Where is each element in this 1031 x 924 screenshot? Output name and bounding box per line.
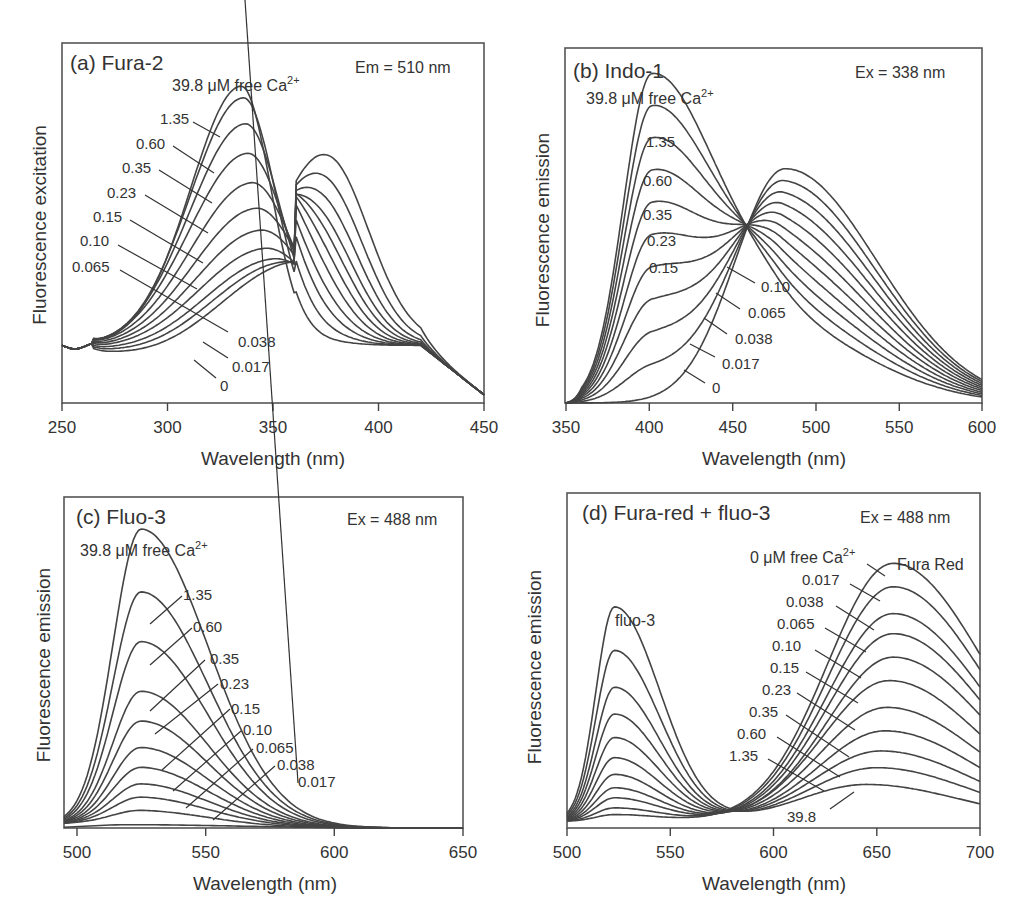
panel-c-tick: 600 — [320, 843, 348, 862]
panel-c-x-axis: 500 550 600 650 Wavelength (nm) — [63, 828, 477, 894]
panel-c-top-label: 39.8 μM free Ca2+ — [80, 539, 208, 559]
panel-a-xlabel: Wavelength (nm) — [201, 448, 345, 469]
panel-b-series-label: 0.038 — [735, 330, 773, 347]
panel-c-series-label: 0.017 — [298, 773, 336, 790]
panel-a-title: (a) Fura-2 — [70, 51, 163, 74]
panel-b-xlabel: Wavelength (nm) — [702, 448, 846, 469]
panel-c-xlabel: Wavelength (nm) — [193, 873, 337, 894]
panel-a-series-label: 0.15 — [93, 208, 122, 225]
panel-c-tick: 650 — [449, 843, 477, 862]
panel-c-tick: 550 — [192, 843, 220, 862]
panel-d-ylabel: Fluorescence emission — [524, 570, 545, 764]
panel-a-series-label: 0.10 — [80, 232, 109, 249]
panel-a-tick: 300 — [153, 418, 181, 437]
panel-a-series-label: 0.017 — [232, 358, 270, 375]
spectrum-curve — [62, 173, 484, 395]
panel-a-series-label: 0.065 — [72, 258, 110, 275]
panel-c-series-label: 0.35 — [210, 650, 239, 667]
panel-c-series-label: 0.15 — [231, 700, 260, 717]
panel-a-tick: 400 — [364, 418, 392, 437]
panel-b-series-label: 0.23 — [647, 232, 676, 249]
panel-b-series-label: 0.15 — [649, 259, 678, 276]
panel-d-title: (d) Fura-red + fluo-3 — [582, 501, 771, 524]
panel-a-fura2: (a) Fura-2 Em = 510 nm 39.8 μM free Ca2+… — [29, 43, 498, 469]
panel-b-curves — [565, 73, 982, 403]
panel-a-top-label: 39.8 μM free Ca2+ — [172, 74, 300, 94]
panel-a-series-label: 0.35 — [122, 159, 151, 176]
spectrum-curve — [62, 183, 484, 395]
panel-d-series-label: 0.15 — [770, 659, 799, 676]
panel-d-series-label: 0.60 — [737, 725, 766, 742]
panel-b-top-label: 39.8 μM free Ca2+ — [586, 87, 714, 107]
panel-d-fluo3-label: fluo-3 — [615, 612, 655, 629]
panel-d-x-axis: 500 550 600 650 700 Wavelength (nm) — [553, 828, 994, 894]
panel-b-tick: 500 — [802, 418, 830, 437]
panel-c-fluo3: (c) Fluo-3 Ex = 488 nm 39.8 μM free Ca2+… — [33, 0, 477, 894]
panel-b-series-label: 0.017 — [722, 355, 760, 372]
panel-d-condition: Ex = 488 nm — [860, 509, 950, 526]
panel-b-tick: 400 — [635, 418, 663, 437]
panel-d-xlabel: Wavelength (nm) — [702, 873, 846, 894]
panel-b-tick: 350 — [552, 418, 580, 437]
panel-d-series-label: 0.35 — [749, 703, 778, 720]
figure-canvas: (a) Fura-2 Em = 510 nm 39.8 μM free Ca2+… — [0, 0, 1031, 924]
panel-b-title: (b) Indo-1 — [573, 59, 664, 82]
spectrum-curve — [62, 194, 484, 394]
panel-a-ylabel: Fluorescence excitation — [29, 125, 50, 325]
panel-d-furared-fluo3: (d) Fura-red + fluo-3 Ex = 488 nm 0 μM f… — [524, 493, 994, 894]
panel-d-furared-label: Fura Red — [897, 556, 964, 573]
panel-c-curves — [64, 529, 463, 828]
panel-c-tick: 500 — [63, 843, 91, 862]
panel-b-indo1: (b) Indo-1 Ex = 338 nm 39.8 μM free Ca2+… — [532, 48, 996, 469]
panel-b-condition: Ex = 338 nm — [855, 64, 945, 81]
panel-c-series-label: 0.23 — [220, 675, 249, 692]
panel-d-series-label: 39.8 — [787, 808, 816, 825]
panel-b-tick: 600 — [968, 418, 996, 437]
panel-c-series-label: 1.35 — [183, 586, 212, 603]
spectrum-curve — [62, 197, 484, 395]
panel-a-series-label: 1.35 — [160, 110, 189, 127]
panel-c-series-label: 0.065 — [256, 739, 294, 756]
panel-c-condition: Ex = 488 nm — [347, 511, 437, 528]
panel-d-top-label: 0 μM free Ca2+ — [750, 546, 855, 566]
spectrum-curve — [62, 187, 484, 394]
panel-c-series-label: 0.60 — [193, 618, 222, 635]
panel-d-series-label: 0.10 — [772, 637, 801, 654]
panel-a-tick: 250 — [48, 418, 76, 437]
panel-d-series-label: 0.23 — [762, 681, 791, 698]
panel-b-series-label: 0.60 — [643, 172, 672, 189]
panel-d-tick: 650 — [863, 843, 891, 862]
panel-c-ylabel: Fluorescence emission — [33, 568, 54, 762]
panel-b-series-label: 0 — [712, 379, 720, 396]
panel-d-series-label: 1.35 — [729, 747, 758, 764]
panel-a-series-label: 0 — [220, 377, 228, 394]
panel-d-series-label: 0.065 — [777, 615, 815, 632]
panel-d-tick: 500 — [553, 843, 581, 862]
panel-c-title: (c) Fluo-3 — [76, 505, 166, 528]
panel-d-tick: 600 — [759, 843, 787, 862]
panel-b-series-label: 0.065 — [748, 304, 786, 321]
panel-b-ylabel: Fluorescence emission — [532, 133, 553, 327]
panel-a-condition: Em = 510 nm — [355, 59, 451, 76]
panel-a-tick: 450 — [470, 418, 498, 437]
panel-d-tick: 700 — [966, 843, 994, 862]
spectrum-curve — [62, 194, 484, 395]
panel-b-series-label: 0.35 — [643, 206, 672, 223]
panel-b-series-label: 0.10 — [761, 278, 790, 295]
spectrum-curve — [565, 201, 982, 403]
panel-d-series-label: 0.017 — [802, 571, 840, 588]
panel-b-tick: 450 — [719, 418, 747, 437]
spectrum-curve — [565, 203, 982, 404]
panel-b-series-label: 1.35 — [646, 133, 675, 150]
panel-a-series-label: 0.038 — [238, 333, 276, 350]
panel-c-series-label: 0.038 — [277, 756, 315, 773]
panel-a-series-label: 0.23 — [107, 184, 136, 201]
panel-d-series-label: 0.038 — [786, 593, 824, 610]
panel-d-tick: 550 — [656, 843, 684, 862]
panel-b-x-axis: 350 400 450 500 550 600 Wavelength (nm) — [552, 403, 996, 469]
panel-c-series-label: 0.10 — [243, 721, 272, 738]
panel-a-series-label: 0.60 — [136, 135, 165, 152]
panel-b-tick: 550 — [885, 418, 913, 437]
